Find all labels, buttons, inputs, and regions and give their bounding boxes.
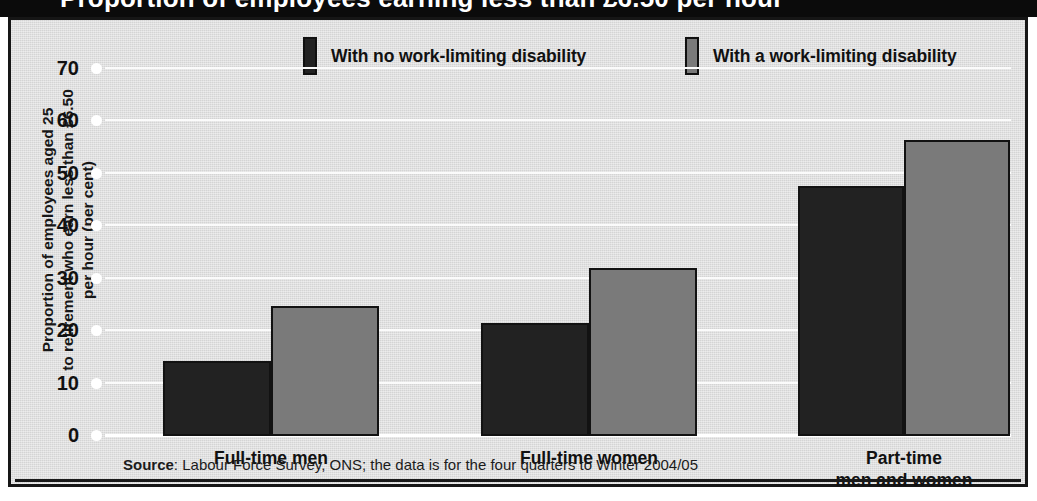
gridline xyxy=(105,67,1011,69)
bar xyxy=(163,361,271,436)
header-band: Proportion of employees earning less tha… xyxy=(0,0,1037,17)
y-tick-label: 0 xyxy=(33,424,79,447)
source-divider xyxy=(15,479,1021,482)
bar xyxy=(904,140,1010,436)
bar xyxy=(589,268,697,436)
tick-marker xyxy=(91,63,102,74)
y-tick-label: 50 xyxy=(33,161,79,184)
y-tick-label: 10 xyxy=(33,371,79,394)
tick-marker xyxy=(91,273,102,284)
figure-frame: With no work-limiting disabilityWith a w… xyxy=(8,17,1028,487)
y-tick-label: 20 xyxy=(33,319,79,342)
tick-marker xyxy=(91,378,102,389)
category-label: Part-time men and women xyxy=(764,447,1037,491)
figure-inner: With no work-limiting disabilityWith a w… xyxy=(11,20,1025,484)
gridline xyxy=(105,172,1011,174)
page-title: Proportion of employees earning less tha… xyxy=(60,0,980,15)
tick-marker xyxy=(91,168,102,179)
gridline xyxy=(105,119,1011,121)
tick-marker xyxy=(91,115,102,126)
y-tick-label: 60 xyxy=(33,109,79,132)
tick-marker xyxy=(91,220,102,231)
tick-marker xyxy=(91,430,102,441)
chart-screenshot: Proportion of employees earning less tha… xyxy=(0,0,1037,501)
bar xyxy=(798,186,904,436)
plot-area: 010203040506070Full-time menFull-time wo… xyxy=(91,34,1011,418)
tick-marker xyxy=(91,325,102,336)
source-label: Source xyxy=(123,456,174,473)
source-note: Source: Labour Force Survey, ONS; the da… xyxy=(123,456,698,473)
source-text: : Labour Force Survey, ONS; the data is … xyxy=(174,456,698,473)
bar xyxy=(271,306,379,436)
bar xyxy=(481,323,589,436)
y-tick-label: 40 xyxy=(33,214,79,237)
y-tick-label: 70 xyxy=(33,57,79,80)
y-tick-label: 30 xyxy=(33,266,79,289)
